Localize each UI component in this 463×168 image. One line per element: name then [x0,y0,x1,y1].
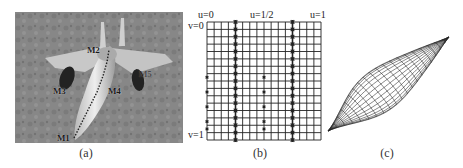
uv-grid-panel: u=0 u=1/2 u=1 v=0 v=1 [190,8,330,148]
uv-grid [190,8,330,148]
marker-label-m2: M2 [87,45,99,55]
marker-label-m3: M3 [53,86,65,96]
caption-a: (a) [66,146,106,161]
marker-label-m4: M4 [108,86,120,96]
aircraft-photo: M1 M2 M3 M4 M5 [15,12,183,143]
spindle-wireframe [320,25,455,140]
marker-label-m1: M1 [57,133,69,143]
caption-c: (c) [367,146,407,161]
aircraft-image [15,12,183,143]
marker-label-m5: M5 [139,69,151,79]
wireframe-surface [320,25,455,140]
caption-b: (b) [240,146,280,161]
